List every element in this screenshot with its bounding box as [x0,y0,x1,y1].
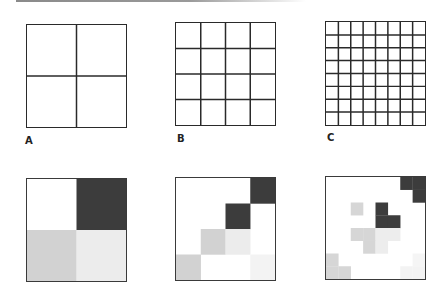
panel-label-a: A [25,135,33,146]
shaded-cell [77,230,127,281]
shaded-panel-a [26,178,127,282]
shaded-cells [326,177,425,279]
shaded-cell [388,228,401,241]
shaded-cell [77,179,127,230]
shaded-cell [176,255,201,281]
shaded-cells [27,179,126,281]
shaded-cell [326,254,339,267]
shaded-cell [376,228,389,241]
shaded-cell [413,177,425,190]
shaded-cell [376,241,389,254]
shaded-cell [413,266,425,279]
shaded-cell [201,229,226,255]
shaded-cell [413,190,425,203]
shaded-cells [176,178,275,280]
top-divider-rule [16,0,306,2]
shaded-cell [226,204,251,230]
panel-label-c: C [327,132,334,143]
shaded-cell [27,230,77,281]
shaded-cell [413,254,425,267]
grid-lines [176,23,275,125]
panel-label-b: B [177,133,185,144]
shaded-cell [250,255,275,281]
shaded-cell [338,266,351,279]
shaded-cell [388,215,401,228]
grid-panel-a [26,24,127,128]
shaded-cell [376,203,389,216]
shaded-cell [400,266,413,279]
shaded-panel-c [325,176,426,280]
shaded-cell [226,229,251,255]
shaded-cell [351,203,364,216]
grid-panel-c [325,21,426,126]
grid-panel-b [175,22,276,126]
shaded-panel-b [175,177,276,281]
grid-lines [27,25,126,127]
shaded-cell [363,228,376,241]
shaded-cell [351,228,364,241]
shaded-cell [363,241,376,254]
shaded-cell [326,266,339,279]
shaded-cell [250,178,275,204]
shaded-cell [400,177,413,190]
grid-lines [326,22,425,125]
shaded-cell [376,215,389,228]
